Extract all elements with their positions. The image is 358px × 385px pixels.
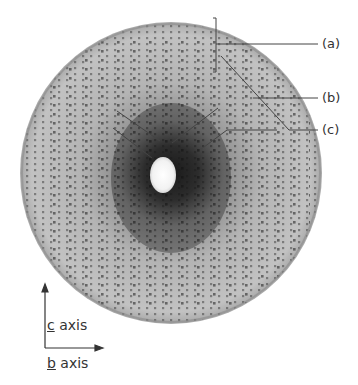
c-axis-label: c axis (47, 318, 87, 332)
label-a: (a) (322, 37, 340, 50)
label-b: (b) (322, 91, 340, 104)
label-c: (c) (322, 123, 339, 136)
b-axis-letter: b (47, 355, 56, 371)
beam-stop (150, 157, 176, 193)
c-axis-suffix: axis (55, 317, 88, 333)
c-axis-letter: c (47, 317, 55, 333)
b-axis-suffix: axis (56, 355, 89, 371)
diffraction-figure: (a) (b) (c) c axis b axis (0, 0, 358, 385)
b-axis-label: b axis (47, 356, 88, 370)
